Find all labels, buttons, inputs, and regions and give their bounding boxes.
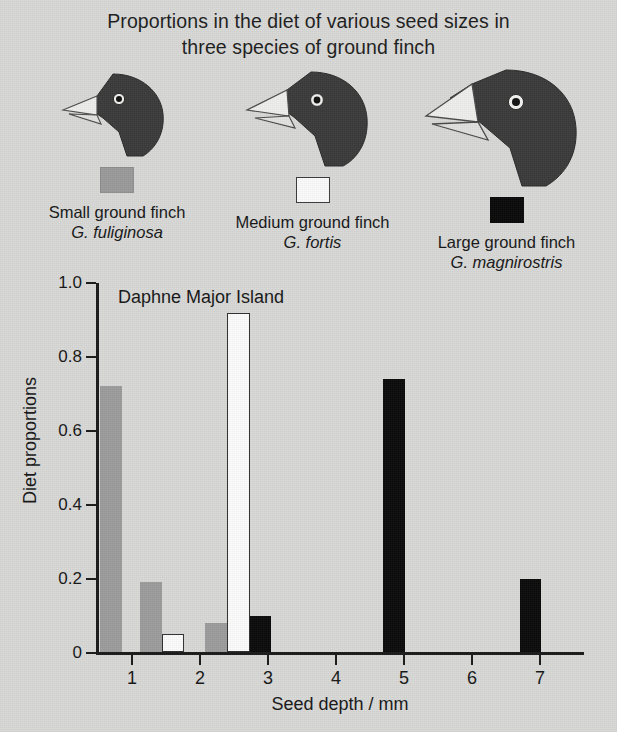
bar — [140, 582, 162, 652]
x-tick — [403, 654, 405, 665]
x-tick — [471, 654, 473, 665]
y-tick-label: 0.2 — [38, 570, 82, 587]
x-tick — [335, 654, 337, 665]
bar — [162, 634, 184, 652]
x-axis-title: Seed depth / mm — [96, 694, 584, 715]
y-tick-label: 0 — [38, 644, 82, 661]
x-tick-label: 1 — [117, 668, 147, 688]
y-tick — [86, 504, 96, 506]
x-tick-label: 2 — [185, 668, 215, 688]
y-tick — [86, 430, 96, 432]
bar — [227, 313, 249, 653]
x-tick — [539, 654, 541, 665]
x-tick-label: 4 — [321, 668, 351, 688]
y-tick-label: 0.8 — [38, 348, 82, 365]
x-tick-label: 6 — [457, 668, 487, 688]
y-tick — [86, 282, 96, 284]
bar — [520, 579, 542, 653]
y-tick — [86, 652, 96, 654]
bar — [383, 379, 405, 652]
y-axis-line — [96, 283, 99, 655]
bar — [205, 623, 227, 653]
bar — [250, 616, 272, 653]
bar-chart: 00.20.40.60.81.0 1234567 Daphne Major Is… — [0, 0, 617, 732]
y-tick-label: 0.4 — [38, 496, 82, 513]
x-tick — [131, 654, 133, 665]
panel-label: Daphne Major Island — [118, 287, 284, 308]
x-tick — [199, 654, 201, 665]
x-tick-label: 3 — [253, 668, 283, 688]
bar — [100, 386, 122, 652]
x-tick — [267, 654, 269, 665]
x-tick-label: 7 — [525, 668, 555, 688]
x-tick-label: 5 — [389, 668, 419, 688]
y-tick — [86, 578, 96, 580]
y-tick-label: 0.6 — [38, 422, 82, 439]
y-tick-label: 1.0 — [38, 274, 82, 291]
y-tick — [86, 356, 96, 358]
y-axis-title: Diet proportions — [20, 331, 41, 551]
figure-container: Proportions in the diet of various seed … — [0, 0, 617, 732]
